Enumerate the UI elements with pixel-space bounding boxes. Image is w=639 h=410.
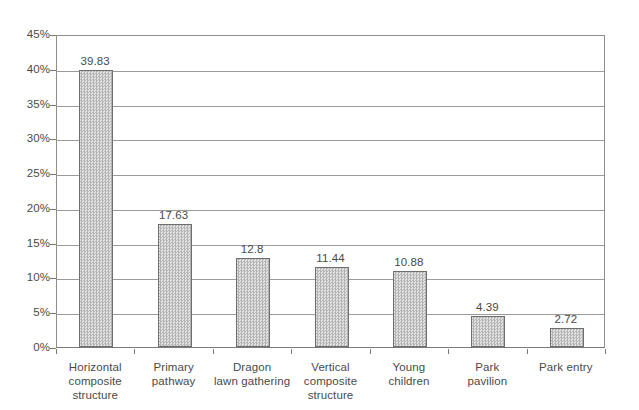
bar: [79, 70, 113, 347]
x-axis-tick-mark: [370, 349, 371, 354]
y-axis-tick-label: 5%: [6, 307, 50, 319]
bar-chart: 0%5%10%15%20%25%30%35%40%45% Horizontal …: [0, 0, 639, 410]
x-axis-category-label: Primary pathway: [152, 360, 196, 388]
gridline: [57, 175, 604, 176]
bar: [471, 316, 505, 347]
x-axis-tick-mark: [527, 349, 528, 354]
bar-value-label: 17.63: [159, 210, 188, 222]
x-axis-tick-mark: [134, 349, 135, 354]
y-axis-tick-label: 25%: [6, 168, 50, 180]
x-axis-tick-mark: [448, 349, 449, 354]
gridline: [57, 245, 604, 246]
y-axis-tick-label: 45%: [6, 29, 50, 41]
y-axis-tick-label: 20%: [6, 203, 50, 215]
gridline: [57, 106, 604, 107]
bar-value-label: 11.44: [316, 253, 344, 265]
x-axis-category-label: Horizontal composite structure: [69, 360, 122, 402]
x-axis-category-label: Park entry: [539, 360, 592, 374]
bar: [550, 328, 584, 347]
y-axis-tick-label: 15%: [6, 238, 50, 250]
x-axis-category-label: Park pavilion: [467, 360, 507, 388]
bar-value-label: 39.83: [81, 56, 110, 68]
y-axis-tick-label: 30%: [6, 134, 50, 146]
bar-value-label: 4.39: [476, 302, 499, 314]
x-axis-category-label: Dragon lawn gathering: [214, 360, 290, 388]
x-axis-tick-mark: [291, 349, 292, 354]
x-axis-tick-mark: [213, 349, 214, 354]
bar-value-label: 12.8: [241, 244, 264, 256]
y-axis-tick-label: 40%: [6, 64, 50, 76]
x-axis-tick-mark: [605, 349, 606, 354]
x-axis-category-label: Vertical composite structure: [304, 360, 357, 402]
bar: [315, 267, 349, 347]
y-axis-tick-label: 35%: [6, 99, 50, 111]
gridline: [57, 140, 604, 141]
bar: [393, 271, 427, 347]
bar-value-label: 10.88: [394, 257, 423, 269]
y-axis-tick-label: 10%: [6, 273, 50, 285]
bar: [158, 224, 192, 347]
gridline: [57, 71, 604, 72]
gridline: [57, 210, 604, 211]
plot-area: [56, 35, 605, 348]
bar: [236, 258, 270, 347]
x-axis-tick-mark: [56, 349, 57, 354]
x-axis-category-label: Young children: [388, 360, 429, 388]
bar-value-label: 2.72: [554, 314, 577, 326]
y-axis-tick-label: 0%: [6, 342, 50, 354]
